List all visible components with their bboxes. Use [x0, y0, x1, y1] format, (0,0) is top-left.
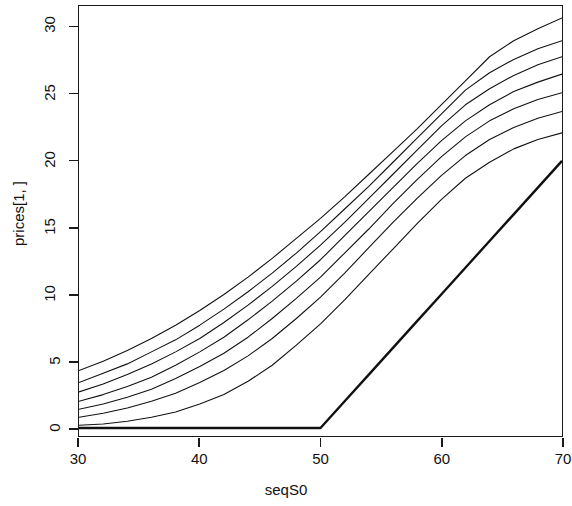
x-tick-mark [441, 438, 443, 447]
y-tick-mark [69, 93, 78, 95]
series-curve-6 [79, 41, 562, 383]
y-tick-mark [69, 227, 78, 229]
y-tick-mark [69, 160, 78, 162]
plot-area [78, 5, 563, 437]
y-tick-mark [69, 428, 78, 430]
x-tick-mark [77, 438, 79, 447]
x-tick-label: 50 [291, 450, 351, 467]
series-curve-7-longest-maturity [79, 18, 562, 371]
y-axis-title: prices[1, ] [10, 144, 27, 284]
y-tick-mark [69, 294, 78, 296]
y-tick-mark [69, 361, 78, 363]
y-tick-label: 0 [0, 419, 58, 436]
x-tick-label: 40 [169, 450, 229, 467]
curve-layer [79, 6, 562, 436]
x-axis-title: seqS0 [0, 481, 572, 498]
chart-figure: 051015202530 3040506070 seqS0 prices[1, … [0, 0, 572, 506]
x-tick-mark [320, 438, 322, 447]
y-tick-label: 5 [0, 352, 58, 369]
x-tick-mark [562, 438, 564, 447]
series-curve-1-shortest-maturity [79, 133, 562, 425]
series-curve-5 [79, 57, 562, 392]
x-tick-label: 70 [533, 450, 572, 467]
series-intrinsic-value-payoff [79, 161, 562, 428]
y-tick-label: 25 [0, 84, 58, 101]
x-tick-mark [198, 438, 200, 447]
y-tick-label: 10 [0, 285, 58, 302]
y-tick-mark [69, 26, 78, 28]
x-tick-label: 30 [48, 450, 108, 467]
x-tick-label: 60 [412, 450, 472, 467]
series-curve-2 [79, 111, 562, 417]
series-curve-3 [79, 93, 562, 409]
y-tick-label: 30 [0, 16, 58, 33]
